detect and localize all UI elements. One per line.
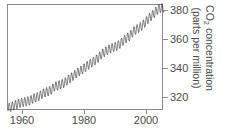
ytick-mark-360 [163, 39, 168, 40]
subscript-two: 2 [202, 21, 211, 25]
ytick-mark-320 [163, 97, 168, 98]
keeling-curve-line [8, 5, 164, 111]
ytick-mark-340 [163, 68, 168, 69]
co2-concentration-chart: 380 360 340 320 1960 1980 2000 CO2 conce… [0, 0, 225, 134]
ytick-mark-380 [163, 10, 168, 11]
co2-series-path [8, 4, 164, 112]
xtick-label-1980: 1980 [72, 115, 96, 126]
y-axis-title-line1: CO2 concentration [203, 0, 216, 100]
xtick-label-2000: 2000 [134, 115, 158, 126]
y-axis-title: CO2 concentration (parts per million) [183, 4, 223, 110]
y-axis-title-line2: (parts per million) [191, 0, 203, 100]
plot-area [7, 4, 163, 110]
xtick-label-1960: 1960 [10, 115, 34, 126]
